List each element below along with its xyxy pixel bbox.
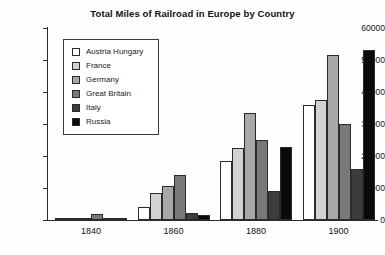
bar bbox=[220, 161, 232, 220]
bar bbox=[315, 100, 327, 220]
legend-swatch-icon bbox=[72, 62, 80, 70]
legend-swatch-icon bbox=[72, 118, 80, 126]
bar bbox=[162, 186, 174, 220]
bar-group bbox=[220, 28, 292, 220]
legend-item: France bbox=[64, 59, 158, 73]
legend-item-label: Great Britain bbox=[86, 90, 131, 98]
legend-item: Germany bbox=[64, 73, 158, 87]
chart-title: Total Miles of Railroad in Europe by Cou… bbox=[0, 8, 385, 19]
bar bbox=[115, 218, 127, 220]
x-tick-label: 1880 bbox=[246, 226, 266, 236]
x-tick-label: 1900 bbox=[328, 226, 348, 236]
x-axis-line bbox=[46, 220, 378, 221]
legend-swatch-icon bbox=[72, 76, 80, 84]
bar bbox=[55, 218, 67, 220]
chart-legend: Austria HungaryFranceGermanyGreat Britai… bbox=[63, 39, 159, 135]
y-tick-mark bbox=[43, 220, 47, 221]
bar-group bbox=[303, 28, 375, 220]
x-tick-label: 1840 bbox=[81, 226, 101, 236]
chart-figure: Total Miles of Railroad in Europe by Cou… bbox=[0, 0, 385, 255]
bar bbox=[363, 50, 375, 220]
legend-item-label: Austria Hungary bbox=[86, 48, 143, 56]
bar bbox=[339, 124, 351, 220]
legend-item: Great Britain bbox=[64, 87, 158, 101]
bar bbox=[150, 193, 162, 220]
legend-item-label: Russia bbox=[86, 118, 110, 126]
bar bbox=[198, 215, 210, 220]
bar bbox=[268, 191, 280, 220]
bar bbox=[256, 140, 268, 220]
legend-item: Italy bbox=[64, 101, 158, 115]
legend-item-label: Italy bbox=[86, 104, 101, 112]
bar bbox=[174, 175, 186, 220]
bar bbox=[327, 55, 339, 220]
legend-item-label: France bbox=[86, 62, 111, 70]
bar bbox=[280, 147, 292, 220]
legend-swatch-icon bbox=[72, 48, 80, 56]
legend-item: Russia bbox=[64, 115, 158, 129]
legend-swatch-icon bbox=[72, 104, 80, 112]
bar bbox=[103, 218, 115, 220]
legend-swatch-icon bbox=[72, 90, 80, 98]
x-tick-label: 1860 bbox=[163, 226, 183, 236]
bar bbox=[138, 207, 150, 220]
bar bbox=[303, 105, 315, 220]
bar bbox=[244, 113, 256, 220]
bar bbox=[186, 213, 198, 220]
bar bbox=[67, 218, 79, 220]
bar bbox=[232, 148, 244, 220]
bar bbox=[91, 214, 103, 220]
legend-item: Austria Hungary bbox=[64, 45, 158, 59]
bar bbox=[79, 218, 91, 220]
bar bbox=[351, 169, 363, 220]
legend-item-label: Germany bbox=[86, 76, 119, 84]
